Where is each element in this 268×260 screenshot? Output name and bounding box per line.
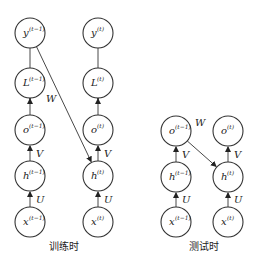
testing-label-V-right: V bbox=[234, 149, 243, 160]
svg-text:(t−1): (t−1) bbox=[29, 75, 46, 82]
training-label-W: W bbox=[46, 93, 57, 104]
training-node-y-curr: y(t) bbox=[83, 18, 113, 48]
training-node-y-prev: y(t−1) bbox=[15, 18, 46, 48]
training-node-x-prev: x(t−1) bbox=[15, 207, 46, 237]
svg-text:(t): (t) bbox=[227, 123, 235, 130]
svg-text:(t): (t) bbox=[97, 25, 105, 32]
svg-text:(t−1): (t−1) bbox=[29, 214, 46, 221]
testing-label-V-left: V bbox=[182, 149, 191, 160]
testing-label-W: W bbox=[195, 117, 206, 128]
testing-label-U-left: U bbox=[182, 194, 191, 205]
svg-text:(t−1): (t−1) bbox=[175, 123, 192, 130]
svg-text:(t): (t) bbox=[97, 214, 105, 221]
training-node-h-prev: h(t−1) bbox=[15, 161, 46, 191]
svg-text:(t): (t) bbox=[97, 122, 105, 129]
testing-node-o-curr: o(t) bbox=[213, 116, 243, 146]
training-label-U-right: U bbox=[104, 194, 113, 205]
training-node-o-curr: o(t) bbox=[83, 115, 113, 145]
svg-text:(t): (t) bbox=[227, 169, 235, 176]
svg-text:y: y bbox=[90, 27, 97, 38]
rnn-teacher-forcing-diagram: y(t−1)L(t−1)o(t−1)h(t−1)x(t−1)y(t)L(t)o(… bbox=[0, 0, 268, 260]
testing-node-x-curr: x(t) bbox=[213, 207, 243, 237]
edge-labels: WVVUUWVVUU bbox=[36, 93, 243, 205]
nodes: y(t−1)L(t−1)o(t−1)h(t−1)x(t−1)y(t)L(t)o(… bbox=[15, 18, 243, 237]
training-label-V-left: V bbox=[36, 148, 45, 159]
svg-text:(t−1): (t−1) bbox=[175, 214, 192, 221]
edges bbox=[30, 18, 228, 207]
training-node-h-curr: h(t) bbox=[83, 161, 113, 191]
svg-text:(t): (t) bbox=[97, 75, 105, 82]
testing-node-h-curr: h(t) bbox=[213, 162, 243, 192]
training-label-U-left: U bbox=[36, 194, 45, 205]
svg-text:(t): (t) bbox=[227, 214, 235, 221]
testing-node-h-prev: h(t−1) bbox=[161, 162, 192, 192]
svg-text:(t−1): (t−1) bbox=[29, 168, 46, 175]
svg-text:(t): (t) bbox=[97, 168, 105, 175]
training-caption: 训练时 bbox=[49, 240, 79, 252]
svg-text:y: y bbox=[22, 27, 29, 38]
testing-node-o-prev: o(t−1) bbox=[161, 116, 192, 146]
testing-caption: 测试时 bbox=[189, 240, 219, 252]
training-label-V-right: V bbox=[104, 148, 113, 159]
svg-text:(t−1): (t−1) bbox=[29, 122, 46, 129]
testing-node-x-prev: x(t−1) bbox=[161, 207, 192, 237]
svg-text:(t−1): (t−1) bbox=[29, 25, 46, 32]
svg-text:(t−1): (t−1) bbox=[175, 169, 192, 176]
training-node-o-prev: o(t−1) bbox=[15, 115, 46, 145]
training-node-L-curr: L(t) bbox=[83, 68, 113, 98]
testing-label-U-right: U bbox=[234, 194, 243, 205]
training-node-x-curr: x(t) bbox=[83, 207, 113, 237]
training-node-L-prev: L(t−1) bbox=[15, 68, 46, 98]
